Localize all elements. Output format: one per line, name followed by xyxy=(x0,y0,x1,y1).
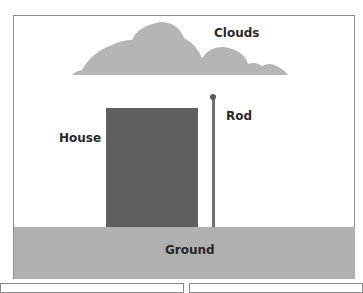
rod-tip-icon xyxy=(210,94,216,100)
bottom-panel-right xyxy=(189,283,363,293)
clouds-label: Clouds xyxy=(214,26,259,40)
rod-shape xyxy=(212,98,215,227)
bottom-panel-left xyxy=(0,283,184,293)
ground-label: Ground xyxy=(165,243,215,257)
rod-label: Rod xyxy=(226,109,252,123)
house-label: House xyxy=(59,131,101,145)
house-shape xyxy=(106,108,198,227)
